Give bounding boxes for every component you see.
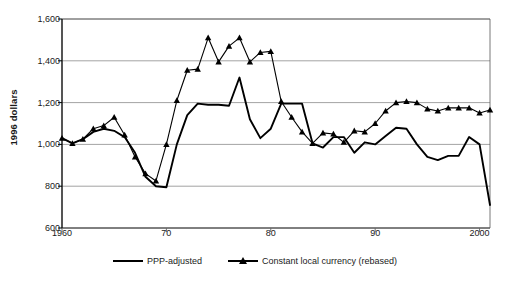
line-marker-swatch-icon xyxy=(228,256,258,266)
y-axis-tick-label: 1,000 xyxy=(26,139,60,149)
series-marker xyxy=(236,35,242,41)
x-axis-tick-label: 80 xyxy=(266,228,276,238)
data-series-layer xyxy=(59,35,493,205)
series-marker xyxy=(215,59,221,65)
axis-lines xyxy=(62,19,490,228)
chart-container: 1996 dollars 6008001,0001,2001,4001,600 … xyxy=(0,0,510,286)
legend-label-ppp-adjusted: PPP-adjusted xyxy=(147,256,202,266)
x-axis-tick-label: 70 xyxy=(161,228,171,238)
series-marker xyxy=(278,98,284,104)
series-marker xyxy=(424,106,430,112)
series-marker xyxy=(174,97,180,103)
y-axis-tick-label: 1,200 xyxy=(26,98,60,108)
x-axis-tick-label: 1960 xyxy=(52,228,72,238)
series-marker xyxy=(111,114,117,120)
chart-legend: PPP-adjusted Constant local currency (re… xyxy=(0,256,510,266)
line-swatch-icon xyxy=(113,256,143,266)
series-marker xyxy=(153,178,159,184)
y-axis-tick-label: 1,600 xyxy=(26,14,60,24)
x-axis-tick-label: 2000 xyxy=(470,228,490,238)
series-marker xyxy=(487,107,493,113)
legend-item-ppp-adjusted[interactable]: PPP-adjusted xyxy=(113,256,202,266)
y-axis-tick-labels: 6008001,0001,2001,4001,600 xyxy=(20,0,60,286)
series-marker xyxy=(288,114,294,120)
y-axis-tick-label: 1,400 xyxy=(26,56,60,66)
x-axis-tick-label: 90 xyxy=(370,228,380,238)
plot-area xyxy=(0,0,510,286)
gridlines xyxy=(62,19,490,228)
series-marker xyxy=(205,35,211,41)
legend-item-constant-local-currency[interactable]: Constant local currency (rebased) xyxy=(228,256,397,266)
y-axis-tick-label: 800 xyxy=(26,181,60,191)
legend-label-constant-local-currency: Constant local currency (rebased) xyxy=(262,256,397,266)
